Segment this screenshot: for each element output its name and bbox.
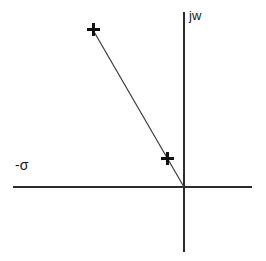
imaginary-axis-label: jw (189, 9, 201, 22)
plus-vertical-stroke-icon (92, 23, 95, 36)
s-plane-diagram: jw -σ (0, 0, 266, 261)
locus-line-svg (0, 0, 266, 261)
real-axis-label: -σ (15, 159, 28, 172)
plus-vertical-stroke-icon (166, 152, 169, 165)
pole-marker-lower (161, 152, 174, 165)
pole-marker-upper (87, 23, 100, 36)
